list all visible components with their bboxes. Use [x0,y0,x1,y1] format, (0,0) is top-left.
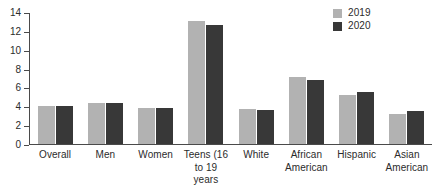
x-axis-labels: OverallMenWomenTeens (16 to 19 yearsWhit… [30,149,432,187]
y-axis-tick-label: 14 [10,8,21,18]
x-axis-category-label: Asian American [382,149,432,187]
bar-2019 [239,109,256,144]
x-axis-category-label: Hispanic [332,149,382,187]
bar-2019 [38,106,55,144]
bar-2020 [257,110,274,144]
bar-group [181,13,231,144]
y-axis-tick-mark [24,88,29,89]
bar-2019 [88,103,105,144]
bar-2019 [389,114,406,144]
x-axis-category-label: White [231,149,281,187]
y-axis-tick-label: 8 [15,65,21,75]
bar-group [30,13,80,144]
y-axis-tick-mark [24,51,29,52]
x-axis-line [29,144,432,145]
bar-2020 [307,80,324,144]
bar-group [80,13,130,144]
y-axis-tick-mark [24,70,29,71]
y-axis-tick-mark [24,145,29,146]
x-axis-category-label: Overall [30,149,80,187]
plot-area: 02468101214 [29,13,432,145]
y-axis-tick-label: 0 [15,140,21,150]
bar-2020 [56,106,73,144]
y-axis-tick-label: 6 [15,83,21,93]
x-axis-category-label: African American [281,149,331,187]
y-axis-tick-mark [24,13,29,14]
bar-2020 [156,108,173,144]
bar-group [281,13,331,144]
y-axis-tick-label: 2 [15,121,21,131]
y-axis-tick-mark [24,107,29,108]
bar-2019 [289,77,306,144]
bar-2020 [106,103,123,144]
bar-2020 [357,92,374,144]
bar-2019 [138,108,155,144]
bar-group [332,13,382,144]
x-axis-category-label: Men [80,149,130,187]
bar-groups [30,13,432,144]
x-axis-category-label: Women [131,149,181,187]
bar-group [231,13,281,144]
y-axis-tick-label: 4 [15,102,21,112]
y-axis-tick-mark [24,126,29,127]
bar-group [382,13,432,144]
bar-2019 [188,21,205,145]
bar-2020 [206,25,223,144]
bar-chart: 20192020 02468101214 OverallMenWomenTeen… [0,0,442,195]
bar-group [131,13,181,144]
bar-2019 [339,95,356,144]
y-axis-tick-label: 10 [10,46,21,56]
y-axis-tick-label: 12 [10,27,21,37]
x-axis-category-label: Teens (16 to 19 years [181,149,231,187]
y-axis-tick-mark [24,32,29,33]
bar-2020 [407,111,424,144]
